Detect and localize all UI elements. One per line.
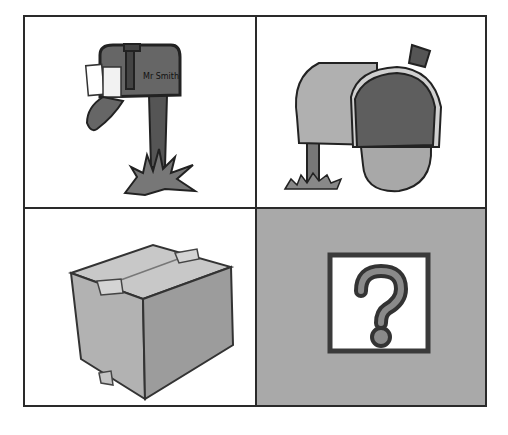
- cardboard-box-icon: [25, 209, 257, 405]
- open-mailbox-icon: [257, 17, 485, 209]
- question-mark-icon: [257, 209, 485, 405]
- choice-cell-package[interactable]: [25, 209, 257, 405]
- choice-cell-open-mailbox[interactable]: [257, 17, 485, 209]
- choice-cell-unknown[interactable]: [257, 209, 485, 405]
- choice-cell-mailbox-letters[interactable]: Mr Smith: [25, 17, 257, 209]
- picture-choice-grid: Mr Smith: [23, 15, 487, 407]
- mailbox-with-letters-icon: Mr Smith: [25, 17, 257, 209]
- mailbox-name-text: Mr Smith: [143, 72, 179, 81]
